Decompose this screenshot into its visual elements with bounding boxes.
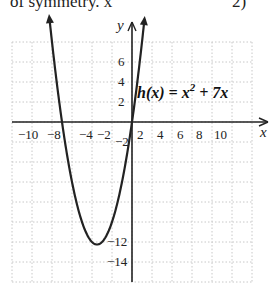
x-tick-label: −2 (97, 127, 111, 142)
x-tick-label: −8 (47, 127, 61, 142)
y-tick-label: 2 (118, 94, 125, 109)
y-tick-label: −2 (115, 134, 129, 149)
x-axis-label: x (259, 124, 267, 140)
x-tick-label: 2 (137, 127, 144, 142)
y-tick-label: −12 (107, 234, 127, 249)
x-tick-label: −10 (18, 127, 38, 142)
y-tick-label: 4 (118, 74, 125, 89)
x-tick-label: 4 (157, 127, 164, 142)
function-label: h(x) = x2 + 7x (137, 81, 228, 102)
arrowhead-icon (46, 14, 54, 23)
x-tick-label: 10 (214, 127, 227, 142)
y-axis-label: y (115, 17, 124, 33)
arrowhead-icon (140, 16, 148, 25)
x-tick-label: 8 (196, 127, 203, 142)
x-tick-label: −4 (79, 127, 93, 142)
x-tick-label: 6 (177, 127, 184, 142)
y-tick-label: 6 (118, 54, 125, 69)
y-tick-label: −14 (107, 254, 128, 269)
function-graph: −10−8−4−2246810642−2−12−14 h(x) = x2 + 7… (0, 0, 277, 303)
